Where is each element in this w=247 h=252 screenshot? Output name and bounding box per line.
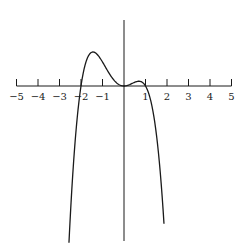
x-tick-label: −2 <box>74 91 89 102</box>
x-tick-label: 1 <box>142 91 148 102</box>
x-tick-label: −4 <box>31 91 46 102</box>
x-axis-tick-labels: −5−4−3−2−112345 <box>9 91 235 102</box>
x-tick-label: −3 <box>52 91 67 102</box>
function-plot: −5−4−3−2−112345 <box>0 0 247 252</box>
x-tick-label: 2 <box>164 91 170 102</box>
function-curve <box>69 52 164 243</box>
x-tick-label: 3 <box>185 91 191 102</box>
x-tick-label: −5 <box>9 91 24 102</box>
x-tick-label: 4 <box>207 91 213 102</box>
x-tick-label: −1 <box>95 91 110 102</box>
axes <box>17 20 232 241</box>
x-tick-label: 5 <box>228 91 234 102</box>
